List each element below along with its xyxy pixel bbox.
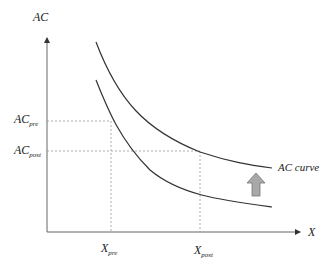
y-tick-ac-pre: ACpre [13,112,38,128]
x-tick-x-pre: Xpre [100,241,117,257]
ac-curve-lower [96,80,272,207]
curve-label: AC curve [277,161,319,173]
y-tick-ac-post: ACpost [13,143,42,159]
x-tick-x-post: Xpost [193,243,214,259]
ac-curve-diagram: AC X AC curve ACpre ACpost Xpre Xpost [0,0,332,272]
x-axis-label: X [307,225,316,239]
ac-curve-upper [96,42,272,168]
y-axis-label: AC [32,10,49,24]
shift-up-arrow-icon [247,173,265,196]
